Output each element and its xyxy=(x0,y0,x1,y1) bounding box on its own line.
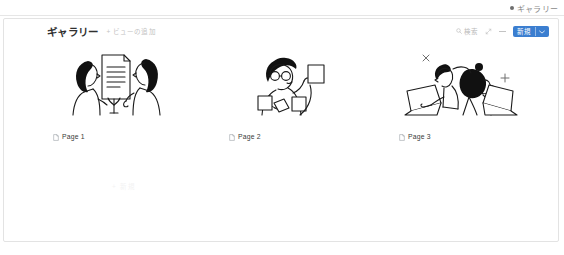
page-title: ギャラリー xyxy=(47,24,99,39)
add-new-card-hint[interactable]: + 新規 xyxy=(112,181,136,191)
gallery-card-title: Page 3 xyxy=(408,133,431,140)
document-icon xyxy=(53,127,59,145)
gallery-card[interactable]: Page 2 xyxy=(220,43,360,145)
two-people-reviewing-document-illustration xyxy=(49,43,179,125)
search-icon xyxy=(456,28,462,34)
search-button-label: 検索 xyxy=(464,26,478,36)
add-view-button[interactable]: + ビューの追加 xyxy=(107,26,156,36)
browser-tab-strip: ギャラリー xyxy=(0,0,564,16)
tab-gallery-label: ギャラリー xyxy=(517,3,558,14)
gallery-window: ギャラリー + ビューの追加 検索 xyxy=(3,18,559,242)
gallery-card-label: Page 3 xyxy=(395,127,525,145)
gallery-header: ギャラリー + ビューの追加 検索 xyxy=(4,19,558,43)
new-button[interactable]: 新規 xyxy=(513,26,549,37)
gallery-card-title: Page 2 xyxy=(238,133,261,140)
new-button-separator xyxy=(535,27,536,36)
search-button[interactable]: 検索 xyxy=(456,26,478,36)
chevron-down-icon[interactable] xyxy=(539,28,545,35)
record-dot-icon xyxy=(510,6,514,10)
dash-icon[interactable] xyxy=(499,31,506,32)
gallery-card[interactable]: Page 1 xyxy=(44,43,184,145)
gallery-card-title: Page 1 xyxy=(62,133,85,140)
gallery-grid: Page 1 xyxy=(4,43,558,151)
sort-arrows-icon[interactable] xyxy=(485,28,492,35)
gallery-card[interactable]: Page 3 xyxy=(390,43,530,145)
gallery-card-label: Page 2 xyxy=(225,127,355,145)
tab-strip-divider xyxy=(0,15,564,16)
new-button-label: 新規 xyxy=(517,26,531,36)
tab-gallery[interactable]: ギャラリー xyxy=(510,3,558,14)
header-toolbar: 検索 新規 xyxy=(456,26,549,37)
two-people-at-laptops-illustration xyxy=(395,43,525,125)
document-icon xyxy=(399,127,405,145)
gallery-card-label: Page 1 xyxy=(49,127,179,145)
person-with-glasses-holding-cards-illustration xyxy=(225,43,355,125)
document-icon xyxy=(229,127,235,145)
